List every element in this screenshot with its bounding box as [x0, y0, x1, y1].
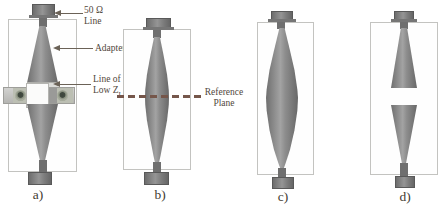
- panel-b-label: b): [130, 187, 190, 203]
- panel-d-label: d): [375, 189, 435, 205]
- panel-d-top-feed-stub: [400, 22, 408, 29]
- figure-canvas: a) 50 Ω Line Adapter Line of Low ZL. b) …: [0, 0, 447, 214]
- panel-c-top-feed-stub: [277, 22, 285, 29]
- low-z-arrowhead-icon: [53, 81, 60, 87]
- fifty-ohm-line-label-line1: 50 Ω: [84, 5, 103, 16]
- adapter-label: Adapter: [95, 43, 126, 54]
- low-z-line-label-line1: Line of: [93, 74, 125, 85]
- panel-a-top-feed-stub: [39, 18, 47, 27]
- fifty-ohm-line-label: 50 Ω Line: [84, 5, 103, 27]
- panel-b-bottom-connector: [144, 172, 169, 185]
- panel-d-bottom-connector: [395, 176, 415, 188]
- reference-plane-label-line1: Reference: [200, 87, 248, 98]
- low-z-prefix: Low Z: [93, 85, 119, 95]
- low-z-leader-line: [60, 84, 91, 85]
- panel-c-bottom-connector: [272, 177, 294, 189]
- panel-a-label: a): [8, 187, 68, 203]
- screw-left-icon: [15, 90, 26, 101]
- panel-a-bottom-feed-stub: [39, 160, 47, 172]
- adapter-leader-line: [60, 48, 93, 49]
- panel-b-top-feed-stub: [153, 30, 161, 38]
- panel-c-label: c): [253, 189, 313, 205]
- fifty-ohm-line-label-line2: Line: [84, 16, 103, 27]
- panel-b-bottom-feed-stub: [153, 162, 161, 172]
- adapter-arrowhead-icon: [53, 45, 60, 51]
- fifty-ohm-arrowhead-icon: [54, 10, 61, 16]
- reference-plane-label: Reference Plane: [200, 87, 248, 109]
- panel-c-bottom-feed-stub: [278, 168, 286, 177]
- reference-plane-label-line2: Plane: [200, 98, 248, 109]
- panel-d-bottom-feed-stub: [400, 163, 408, 176]
- panel-a-bottom-connector: [28, 172, 52, 185]
- screw-right-icon: [57, 90, 68, 101]
- fifty-ohm-leader-line: [60, 13, 83, 14]
- reference-plane-line: [117, 95, 201, 98]
- clamp-center-block: [49, 88, 57, 103]
